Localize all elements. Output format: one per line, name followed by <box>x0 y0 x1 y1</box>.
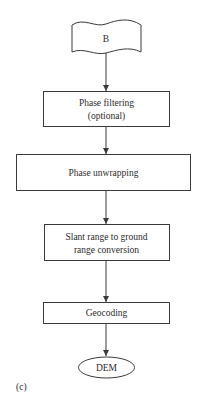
process-box <box>44 92 170 127</box>
panel-label: (c) <box>16 382 27 393</box>
flowchart: B Phase filtering (optional) Phase unwra… <box>0 0 198 409</box>
node-dem: DEM <box>79 357 135 378</box>
node-phase-filtering-label-line2: (optional) <box>88 111 125 122</box>
node-b: B <box>72 20 141 54</box>
node-slant-range-label-line1: Slant range to ground <box>65 232 147 242</box>
node-b-label: B <box>103 34 109 44</box>
node-slant-range-conversion: Slant range to ground range conversion <box>45 225 170 261</box>
node-phase-unwrapping: Phase unwrapping <box>17 155 191 191</box>
node-dem-label: DEM <box>96 363 118 373</box>
node-geocoding-label: Geocoding <box>86 308 128 318</box>
process-box <box>45 225 170 261</box>
node-phase-unwrapping-label: Phase unwrapping <box>69 168 139 178</box>
node-geocoding: Geocoding <box>44 303 170 324</box>
node-phase-filtering: Phase filtering (optional) <box>44 92 170 127</box>
node-phase-filtering-label-line1: Phase filtering <box>79 98 134 108</box>
node-slant-range-label-line2: range conversion <box>74 245 139 255</box>
